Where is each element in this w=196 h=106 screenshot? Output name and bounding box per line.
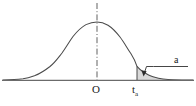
tail-area-label: a <box>174 55 178 65</box>
density-curve <box>3 22 193 80</box>
critical-value-label: ta <box>132 84 138 98</box>
alpha-leader-line <box>145 67 189 73</box>
origin-label: O <box>92 84 100 95</box>
distribution-figure: O ta a <box>0 0 196 106</box>
critical-value-subscript: a <box>135 90 138 98</box>
